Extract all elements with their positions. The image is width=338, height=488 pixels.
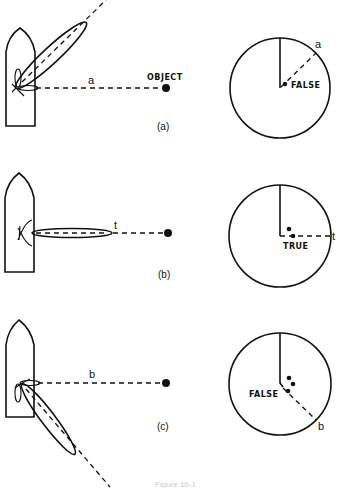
- panel-label-b: (b): [158, 269, 170, 280]
- echo-dot-c2: [291, 382, 296, 387]
- side-lobe-axis-c: [26, 389, 110, 487]
- side-lobe-a: [11, 17, 92, 94]
- back-lobes-b: [18, 220, 32, 246]
- echo-dot-b1: [287, 227, 292, 232]
- echo-dot-c3: [286, 389, 291, 394]
- figure-caption: Figure 10-1: [155, 480, 196, 488]
- side-lobe-c: [16, 380, 80, 459]
- object-label: OBJECT: [147, 73, 183, 82]
- panel-label-c: (c): [157, 421, 169, 432]
- echo-dot-b2: [291, 234, 296, 239]
- scope-bearing-label-b: t: [332, 230, 335, 242]
- scope-label-b: TRUE: [283, 242, 309, 251]
- scope-label-a: FALSE: [291, 81, 321, 90]
- ship-b: [5, 173, 34, 272]
- object-dot-b: [164, 229, 172, 237]
- scope-bearing-label-a: a: [315, 38, 322, 50]
- radar-false-echo-diagram: a OBJECT (a) a FALSE t (b) t TRUE: [0, 0, 338, 488]
- scope-label-c: FALSE: [249, 390, 279, 399]
- bearing-label-b: t: [114, 219, 117, 231]
- panel-b: t (b) t TRUE: [5, 173, 335, 287]
- object-dot-c: [162, 379, 170, 387]
- heading-line-c: [280, 333, 283, 387]
- bearing-label-a: a: [88, 74, 95, 86]
- panel-a: a OBJECT (a) a FALSE: [6, 0, 330, 138]
- ship-c: [6, 320, 34, 417]
- scope-bearing-label-c: b: [318, 420, 324, 432]
- panel-label-a: (a): [157, 121, 169, 132]
- echo-dot-a: [283, 82, 287, 86]
- bearing-label-c: b: [89, 368, 95, 380]
- echo-dot-c1: [287, 376, 292, 381]
- object-dot-a: [162, 84, 170, 92]
- panel-c: b (c) b FALSE: [6, 320, 331, 487]
